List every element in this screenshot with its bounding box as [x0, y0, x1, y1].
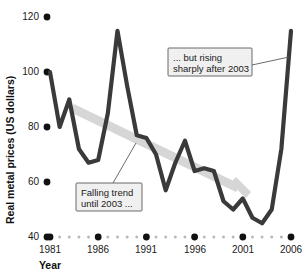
rising-sharply-leader-line: [252, 57, 289, 65]
annotation-falling-trend[interactable]: Falling trend until 2003 ...: [76, 143, 142, 211]
metal-prices-line-chart: Real metal prices (US dollars) 120 100 8…: [0, 0, 308, 276]
x-minor-dot-1988: [116, 236, 119, 239]
falling-trend-leader-line: [113, 143, 136, 183]
x-tick-label-2001: 2001: [232, 244, 255, 255]
falling-trend-line2: until 2003 ...: [81, 198, 133, 209]
y-tick-label-40: 40: [28, 231, 40, 242]
x-minor-dot-2003: [261, 236, 264, 239]
x-tick-dot-2001: [239, 234, 246, 241]
x-tick-label-2006: 2006: [280, 244, 303, 255]
rising-sharply-line1: ... but rising: [173, 52, 222, 63]
x-minor-dot-2005: [280, 236, 283, 239]
x-tick-dot-1996: [191, 234, 198, 241]
x-minor-dot-1990: [135, 236, 138, 239]
x-minor-dot-1984: [77, 236, 80, 239]
x-minor-dot-1987: [106, 236, 109, 239]
chart-container: Real metal prices (US dollars) 120 100 8…: [0, 0, 308, 276]
x-tick-dot-2006: [288, 234, 295, 241]
y-tick-label-80: 80: [28, 121, 40, 132]
trend-arrow-shaft: [72, 108, 238, 188]
x-axis-dot-baseline: [47, 234, 295, 241]
y-axis-title: Real metal prices (US dollars): [4, 76, 16, 224]
x-tick-dot-1986: [95, 234, 102, 241]
x-axis-title: Year: [39, 259, 61, 271]
x-minor-dot-1983: [68, 236, 71, 239]
x-tick-label-1981: 1981: [39, 244, 62, 255]
x-minor-dot-1989: [126, 236, 129, 239]
x-tick-label-1986: 1986: [87, 244, 110, 255]
x-minor-dot-1992: [155, 236, 158, 239]
x-minor-dot-1994: [174, 236, 177, 239]
annotation-rising-sharply[interactable]: ... but rising sharply after 2003: [168, 48, 289, 76]
x-tick-label-1996: 1996: [184, 244, 207, 255]
y-tick-dot-120: [44, 14, 51, 21]
x-tick-label-1991: 1991: [135, 244, 158, 255]
x-minor-dot-1995: [183, 236, 186, 239]
y-tick-dot-60: [44, 179, 51, 186]
falling-trend-line1: Falling trend: [81, 187, 133, 198]
y-tick-label-100: 100: [22, 66, 39, 77]
x-minor-dot-2000: [232, 236, 235, 239]
x-minor-dot-1993: [164, 236, 167, 239]
rising-sharply-line2: sharply after 2003: [173, 63, 249, 74]
y-axis-ticks: 120 100 80 60 40: [22, 11, 50, 242]
x-minor-dot-2004: [270, 236, 273, 239]
x-minor-dot-1999: [222, 236, 225, 239]
x-minor-dot-1998: [212, 236, 215, 239]
x-minor-dot-1985: [87, 236, 90, 239]
x-minor-dot-1997: [203, 236, 206, 239]
x-tick-dot-1981: [47, 234, 54, 241]
y-tick-label-60: 60: [28, 176, 40, 187]
x-minor-dot-1982: [58, 236, 61, 239]
y-tick-label-120: 120: [22, 11, 39, 22]
y-tick-dot-80: [44, 124, 51, 131]
x-axis-tick-labels: 1981 1986 1991 1996 2001 2006: [39, 244, 303, 255]
x-tick-dot-1991: [143, 234, 150, 241]
x-minor-dot-2002: [251, 236, 254, 239]
